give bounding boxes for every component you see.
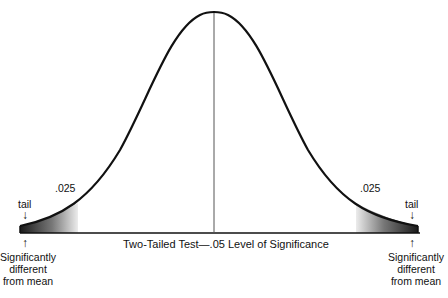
- diagram-caption: Two-Tailed Test—.05 Level of Significanc…: [123, 238, 329, 250]
- right-up-arrow-icon: ↑: [409, 237, 415, 249]
- left-significance-note: Significantly different from mean: [0, 251, 56, 287]
- right-significance-note: Significantly different from mean: [384, 251, 448, 287]
- right-tail-down-arrow-icon: ↓: [409, 209, 415, 221]
- left-tail-area-label: .025: [55, 182, 75, 194]
- left-up-arrow-icon: ↑: [22, 237, 28, 249]
- right-tail-area-label: .025: [360, 182, 380, 194]
- bell-curve: [20, 12, 418, 226]
- normal-curve-diagram: [0, 0, 448, 298]
- left-tail-down-arrow-icon: ↓: [22, 209, 28, 221]
